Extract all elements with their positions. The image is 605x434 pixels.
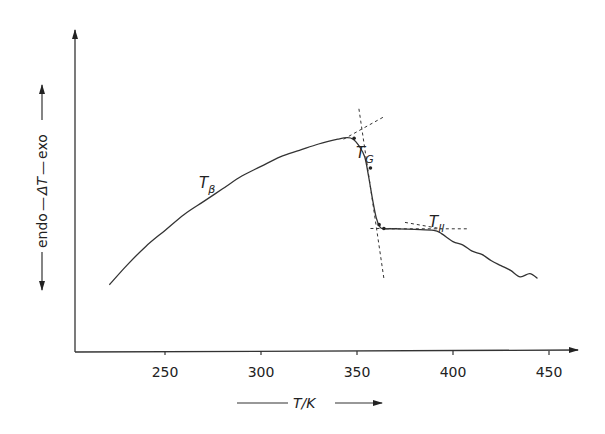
- x-tick-label: 450: [536, 364, 563, 380]
- x-tick-label: 350: [344, 364, 371, 380]
- dta-chart: 250300350400450 Tβ TG Tll T/K endo—ΔT—ex…: [0, 0, 605, 434]
- x-tick-label: 250: [152, 364, 179, 380]
- x-axis: [75, 350, 578, 352]
- y-axis-title-text: endo—ΔT—exo: [34, 134, 50, 248]
- transition-dot: [352, 136, 356, 140]
- tangent-tg-baseline: [344, 117, 384, 139]
- y-axis-title: endo—ΔT—exo: [34, 85, 50, 290]
- x-ticks: 250300350400450: [152, 351, 563, 380]
- dta-trace-line: [109, 138, 537, 285]
- x-axis-title: T/K: [293, 395, 317, 411]
- x-tick-label: 300: [248, 364, 275, 380]
- annotation-t-beta: Tβ: [199, 174, 215, 196]
- transition-dot: [377, 223, 381, 227]
- transition-dot: [369, 166, 373, 170]
- transition-dot: [382, 227, 386, 231]
- x-tick-label: 400: [440, 364, 467, 380]
- tangent-constructions: [344, 109, 469, 279]
- annotation-t-g: TG: [356, 144, 374, 166]
